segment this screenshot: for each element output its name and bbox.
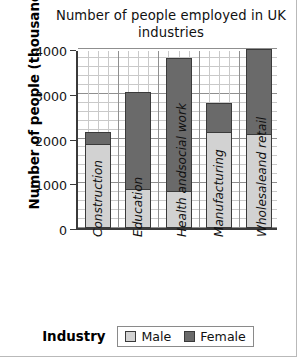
- x-axis-label-line: Construction: [91, 160, 105, 237]
- x-axis-category-manufacturing: Manufacturing: [212, 149, 227, 237]
- x-axis-label-line: and retail: [255, 117, 269, 175]
- x-axis-label-line: Health and: [175, 171, 189, 237]
- x-axis-label-line: social work: [175, 103, 189, 171]
- legend-row: Industry MaleFemale: [0, 326, 296, 347]
- legend-item-male[interactable]: Male: [125, 329, 171, 344]
- bar-segment-female[interactable]: [126, 93, 150, 189]
- legend-swatch-male: [125, 331, 136, 342]
- legend: MaleFemale: [117, 326, 253, 347]
- bar-segment-female[interactable]: [207, 104, 231, 132]
- plot-area: 01000200030004000 ConstructionEducationH…: [76, 51, 277, 230]
- gridline-vertical: [118, 51, 119, 228]
- gridline-vertical: [239, 51, 240, 228]
- legend-label: Male: [141, 329, 171, 344]
- y-axis-tick-label: 0: [59, 223, 67, 238]
- y-axis-tick-label: 2000: [35, 133, 67, 148]
- chart-page: Number of people employed in UK industri…: [0, 0, 297, 357]
- y-axis-tick-label: 1000: [35, 178, 67, 193]
- x-axis-title: Industry: [42, 329, 105, 344]
- x-axis-label-line: Manufacturing: [212, 149, 226, 237]
- x-axis-label-line: Wholesale: [255, 175, 269, 237]
- legend-swatch-female: [184, 331, 195, 342]
- legend-item-female[interactable]: Female: [184, 329, 246, 344]
- bar-segment-female[interactable]: [86, 133, 110, 144]
- x-axis-category-wholesale-and-retail: Wholesaleand retail: [255, 117, 270, 237]
- y-axis-tick-label: 3000: [35, 88, 67, 103]
- y-axis-tick: [70, 184, 76, 185]
- x-axis-label-line: Education: [131, 177, 145, 237]
- y-axis-tick-label: 4000: [35, 44, 67, 59]
- chart-title: Number of people employed in UK industri…: [52, 7, 290, 41]
- y-axis-tick: [70, 50, 76, 51]
- legend-label: Female: [200, 329, 246, 344]
- gridline-vertical: [199, 51, 200, 228]
- y-axis-tick: [70, 140, 76, 141]
- x-axis-category-construction: Construction: [91, 160, 106, 237]
- y-axis-tick: [70, 229, 76, 230]
- gridline-vertical: [158, 51, 159, 228]
- x-axis-category-health-and-social-work: Health andsocial work: [175, 103, 190, 237]
- y-axis-tick: [70, 95, 76, 96]
- x-axis-category-education: Education: [131, 177, 146, 237]
